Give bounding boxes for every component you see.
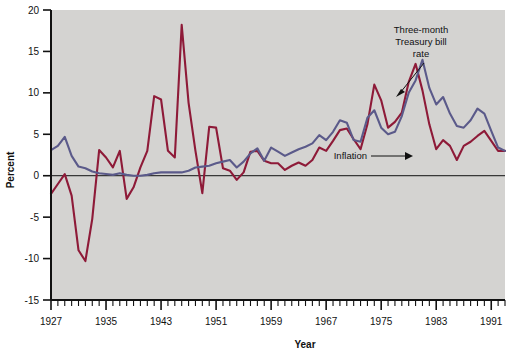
inflation-annotation-label: Inflation bbox=[334, 150, 367, 161]
x-tick-label: 1951 bbox=[205, 316, 228, 327]
y-tick-label: -15 bbox=[25, 295, 40, 306]
x-tick-label: 1927 bbox=[40, 316, 63, 327]
x-tick-label: 1975 bbox=[370, 316, 393, 327]
tbill-annotation-line-1: Three-month bbox=[394, 24, 448, 35]
x-tick-label: 1983 bbox=[425, 316, 448, 327]
chart-figure: -15-10-505101520 19271935194319511959196… bbox=[0, 0, 521, 358]
y-tick-label: -10 bbox=[25, 253, 40, 264]
tbill-annotation-line-3: rate bbox=[413, 48, 429, 59]
x-tick-label: 1991 bbox=[480, 316, 503, 327]
y-tick-label: -5 bbox=[30, 212, 39, 223]
interest-inflation-line-chart: -15-10-505101520 19271935194319511959196… bbox=[0, 0, 521, 358]
tbill-annotation-line-2: Treasury bill bbox=[395, 36, 446, 47]
x-tick-label: 1943 bbox=[150, 316, 173, 327]
y-tick-label: 15 bbox=[28, 46, 40, 57]
y-tick-label: 5 bbox=[33, 129, 39, 140]
x-tick-label: 1959 bbox=[260, 316, 283, 327]
x-axis-title: Year bbox=[294, 339, 315, 350]
y-tick-label: 10 bbox=[28, 87, 40, 98]
y-axis-title: Percent bbox=[5, 151, 16, 188]
x-tick-label: 1967 bbox=[315, 316, 338, 327]
x-tick-label: 1935 bbox=[95, 316, 118, 327]
y-tick-label: 20 bbox=[28, 5, 40, 16]
y-tick-label: 0 bbox=[33, 170, 39, 181]
